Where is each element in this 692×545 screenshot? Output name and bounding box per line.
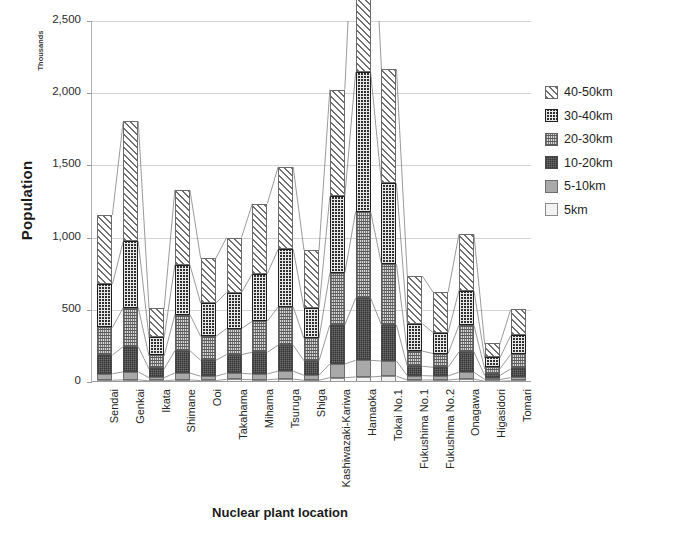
bar-segment-40-50km[interactable] bbox=[201, 258, 216, 303]
stacked-bar[interactable] bbox=[304, 250, 319, 382]
bar-segment-30-40km[interactable] bbox=[459, 291, 474, 326]
bar-segment-20-30km[interactable] bbox=[356, 212, 371, 299]
stacked-bar[interactable] bbox=[433, 292, 448, 382]
bar-segment-30-40km[interactable] bbox=[149, 337, 164, 355]
bar-segment-40-50km[interactable] bbox=[459, 234, 474, 290]
stacked-bar[interactable] bbox=[252, 204, 267, 382]
bar-segment-20-30km[interactable] bbox=[227, 329, 242, 355]
bar-segment-40-50km[interactable] bbox=[175, 190, 190, 265]
bar-segment-30-40km[interactable] bbox=[485, 357, 500, 368]
bar-segment-10-20km[interactable] bbox=[175, 351, 190, 373]
bar-segment-30-40km[interactable] bbox=[252, 274, 267, 322]
bar-segment-20-30km[interactable] bbox=[304, 338, 319, 360]
bar-segment-40-50km[interactable] bbox=[97, 215, 112, 284]
bar-segment-20-30km[interactable] bbox=[123, 308, 138, 347]
y-tick-label: 0 bbox=[0, 374, 81, 386]
bar-segment-10-20km[interactable] bbox=[356, 298, 371, 360]
stacked-bar[interactable] bbox=[175, 190, 190, 382]
stacked-bar[interactable] bbox=[97, 215, 112, 382]
stacked-bar[interactable] bbox=[356, 0, 371, 382]
bar-segment-30-40km[interactable] bbox=[330, 196, 345, 273]
bar-segment-10-20km[interactable] bbox=[97, 355, 112, 374]
bar-segment-20-30km[interactable] bbox=[175, 315, 190, 351]
stacked-bar[interactable] bbox=[459, 234, 474, 382]
stacked-bar[interactable] bbox=[149, 308, 164, 382]
bar-segment-30-40km[interactable] bbox=[304, 308, 319, 338]
bar-segment-10-20km[interactable] bbox=[330, 325, 345, 364]
legend-item-40-50km[interactable]: 40-50km bbox=[545, 85, 613, 99]
bar-segment-30-40km[interactable] bbox=[227, 293, 242, 329]
bar-segment-10-20km[interactable] bbox=[433, 367, 448, 376]
bar-segment-10-20km[interactable] bbox=[278, 345, 293, 371]
bar-segment-40-50km[interactable] bbox=[485, 343, 500, 357]
legend-item-10-20km[interactable]: 10-20km bbox=[545, 156, 613, 170]
bar-segment-30-40km[interactable] bbox=[175, 265, 190, 315]
bar-segment-40-50km[interactable] bbox=[407, 276, 422, 324]
legend-item-5km[interactable]: 5km bbox=[545, 203, 613, 217]
bar-segment-5-10km[interactable] bbox=[330, 364, 345, 378]
bar-segment-40-50km[interactable] bbox=[278, 167, 293, 249]
bar-segment-10-20km[interactable] bbox=[123, 347, 138, 372]
bar-segment-20-30km[interactable] bbox=[149, 355, 164, 368]
bar-segment-5-10km[interactable] bbox=[123, 372, 138, 380]
bar-segment-10-20km[interactable] bbox=[227, 355, 242, 374]
stacked-bar[interactable] bbox=[227, 238, 242, 382]
bar-segment-30-40km[interactable] bbox=[511, 335, 526, 354]
bar-segment-40-50km[interactable] bbox=[149, 308, 164, 337]
stacked-bar[interactable] bbox=[278, 167, 293, 382]
bar-segment-30-40km[interactable] bbox=[97, 284, 112, 327]
bar-segment-5-10km[interactable] bbox=[381, 361, 396, 376]
bar-segment-30-40km[interactable] bbox=[356, 72, 371, 211]
stacked-bar[interactable] bbox=[511, 309, 526, 382]
stacked-bar[interactable] bbox=[123, 121, 138, 382]
bar-segment-40-50km[interactable] bbox=[330, 90, 345, 197]
bar-segment-40-50km[interactable] bbox=[381, 69, 396, 183]
bar-segment-40-50km[interactable] bbox=[227, 238, 242, 293]
bar-segment-10-20km[interactable] bbox=[407, 366, 422, 375]
bar-segment-10-20km[interactable] bbox=[459, 352, 474, 372]
bar-segment-30-40km[interactable] bbox=[201, 303, 216, 336]
bar-segment-40-50km[interactable] bbox=[511, 309, 526, 335]
bar-segment-20-30km[interactable] bbox=[97, 327, 112, 354]
bar-segment-10-20km[interactable] bbox=[252, 352, 267, 374]
bar-segment-5-10km[interactable] bbox=[278, 371, 293, 379]
bar-segment-10-20km[interactable] bbox=[381, 325, 396, 361]
bar-segment-40-50km[interactable] bbox=[252, 204, 267, 274]
bar-segment-30-40km[interactable] bbox=[407, 324, 422, 351]
bar-segment-20-30km[interactable] bbox=[407, 351, 422, 366]
bar-segment-20-30km[interactable] bbox=[201, 336, 216, 360]
bar-segment-20-30km[interactable] bbox=[381, 264, 396, 325]
bar-segment-10-20km[interactable] bbox=[201, 360, 216, 376]
bar-segment-40-50km[interactable] bbox=[123, 121, 138, 241]
bar-segment-30-40km[interactable] bbox=[381, 183, 396, 264]
bar-segment-20-30km[interactable] bbox=[252, 321, 267, 352]
stacked-bar[interactable] bbox=[407, 276, 422, 382]
bar-segment-10-20km[interactable] bbox=[511, 368, 526, 377]
bar-segment-40-50km[interactable] bbox=[433, 292, 448, 332]
legend-label: 5km bbox=[564, 203, 588, 217]
bar-segment-30-40km[interactable] bbox=[433, 333, 448, 354]
bar-segment-20-30km[interactable] bbox=[511, 354, 526, 368]
bar-segment-30-40km[interactable] bbox=[123, 241, 138, 307]
stacked-bar[interactable] bbox=[330, 90, 345, 382]
bar-segment-10-20km[interactable] bbox=[149, 368, 164, 377]
bar-segment-30-40km[interactable] bbox=[278, 249, 293, 307]
bar-segment-20-30km[interactable] bbox=[278, 307, 293, 345]
stacked-bar[interactable] bbox=[485, 343, 500, 382]
stacked-bar[interactable] bbox=[381, 69, 396, 382]
bar-segment-10-20km[interactable] bbox=[304, 361, 319, 375]
stacked-bar[interactable] bbox=[201, 258, 216, 382]
bar-segment-40-50km[interactable] bbox=[304, 250, 319, 308]
bar-segment-5-10km[interactable] bbox=[175, 373, 190, 380]
legend-item-5-10km[interactable]: 5-10km bbox=[545, 179, 613, 193]
bar-segment-20-30km[interactable] bbox=[433, 354, 448, 368]
x-axis-label: Ooi bbox=[211, 389, 223, 406]
bar-segment-5-10km[interactable] bbox=[459, 372, 474, 379]
bar-segment-5-10km[interactable] bbox=[356, 360, 371, 377]
legend-item-20-30km[interactable]: 20-30km bbox=[545, 132, 613, 146]
x-axis-label: Shiga bbox=[315, 389, 327, 417]
bar-segment-20-30km[interactable] bbox=[330, 273, 345, 325]
bar-segment-20-30km[interactable] bbox=[459, 325, 474, 352]
legend-item-30-40km[interactable]: 30-40km bbox=[545, 109, 613, 123]
bar-segment-40-50km[interactable] bbox=[356, 0, 371, 72]
